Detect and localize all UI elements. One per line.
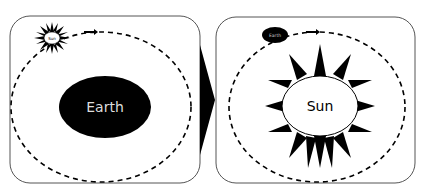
geocentric-to-heliocentric-diagram: Earth Sun [0,0,425,195]
small-sun-label: Sun [48,36,56,41]
sun-center-label: Sun [307,98,334,114]
earth-center-label: Earth [86,99,124,115]
small-earth-label: Earth [269,33,281,38]
right-panel: Sun Earth [216,17,415,183]
left-panel: Earth Sun [10,16,200,183]
transition-arrow-icon [200,45,215,155]
small-earth-icon: Earth [262,27,288,43]
